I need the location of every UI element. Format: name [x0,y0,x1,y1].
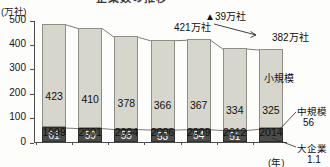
bar-segment-small-enterprise[interactable]: 325 [259,49,283,128]
x-axis-label: 2009 [187,126,210,138]
annotation-start-total: 421万社 [174,19,211,34]
y-tick: 0 [30,143,34,144]
bar-segment-small-enterprise[interactable]: 378 [114,36,138,128]
y-tick-label: 500 [9,14,26,25]
y-tick: 300 [30,69,34,70]
bar-group[interactable]: 36653 [151,20,175,142]
bar-segment-small-enterprise[interactable]: 334 [223,48,247,129]
plot-area: 0100200300400500 42361410593785536653367… [34,21,287,143]
chart-title: 企業数の推移 [96,0,168,4]
x-tick [108,142,109,145]
x-tick [72,142,73,145]
x-tick [144,142,145,145]
y-tick-label: 400 [9,38,26,49]
bar-value-small-enterprise: 334 [226,104,244,116]
x-axis-label: 2012 [223,126,246,138]
x-tick [36,142,37,145]
bar-segment-small-enterprise[interactable]: 423 [42,24,66,127]
y-axis-line [34,21,35,143]
bar-group[interactable]: 41059 [78,20,102,142]
y-tick: 200 [30,94,34,95]
bar-group[interactable]: 42361 [42,20,66,142]
bar-value-small-enterprise: 366 [154,99,172,111]
annotation-small-enterprise-label: 小規模 [264,70,294,85]
x-tick [253,142,254,145]
bar-segment-small-enterprise[interactable]: 366 [151,40,175,129]
x-tick [217,142,218,145]
annotation-large-enterprise-label: 大企業 [297,143,327,154]
y-tick-label: 100 [9,111,26,122]
chart-title-cropped: 企業数の推移 [0,0,330,4]
y-tick: 500 [30,21,34,22]
bar-value-small-enterprise: 367 [190,99,208,111]
annotation-medium-enterprise-label: 中規模 [297,106,327,117]
y-tick-label: 200 [9,87,26,98]
y-tick: 100 [30,118,34,119]
annotation-decrease: ▲39万社 [205,8,246,23]
bar-value-small-enterprise: 378 [118,97,136,109]
bar-value-small-enterprise: 325 [262,104,280,116]
bar-segment-small-enterprise[interactable]: 367 [187,39,211,129]
x-axis-label: 2006 [151,126,174,138]
x-axis-label: 2014 [259,126,282,138]
annotation-end-total: 382万社 [272,29,309,44]
chart-figure: 企業数の推移 (万社) 0100200300400500 42361410593… [0,0,330,167]
x-axis-unit-label: (年) [268,155,284,167]
annotation-medium-enterprise-value: 56 [303,117,314,128]
y-tick-label: 0 [20,136,26,147]
bar-group[interactable]: 37855 [114,20,138,142]
x-axis-label: 2004 [115,126,138,138]
bar-group[interactable]: 36754 [187,20,211,142]
bar-group[interactable]: 33451 [223,20,247,142]
x-axis-label: 1999 [42,126,65,138]
annotation-large-enterprise-value: 1.1 [307,154,321,165]
x-tick [181,142,182,145]
bar-segment-small-enterprise[interactable]: 410 [78,28,102,128]
x-axis-label: 2001 [79,126,102,138]
bar-value-small-enterprise: 423 [45,90,63,102]
y-tick: 400 [30,45,34,46]
y-tick-label: 300 [9,62,26,73]
bar-value-small-enterprise: 410 [81,93,99,105]
